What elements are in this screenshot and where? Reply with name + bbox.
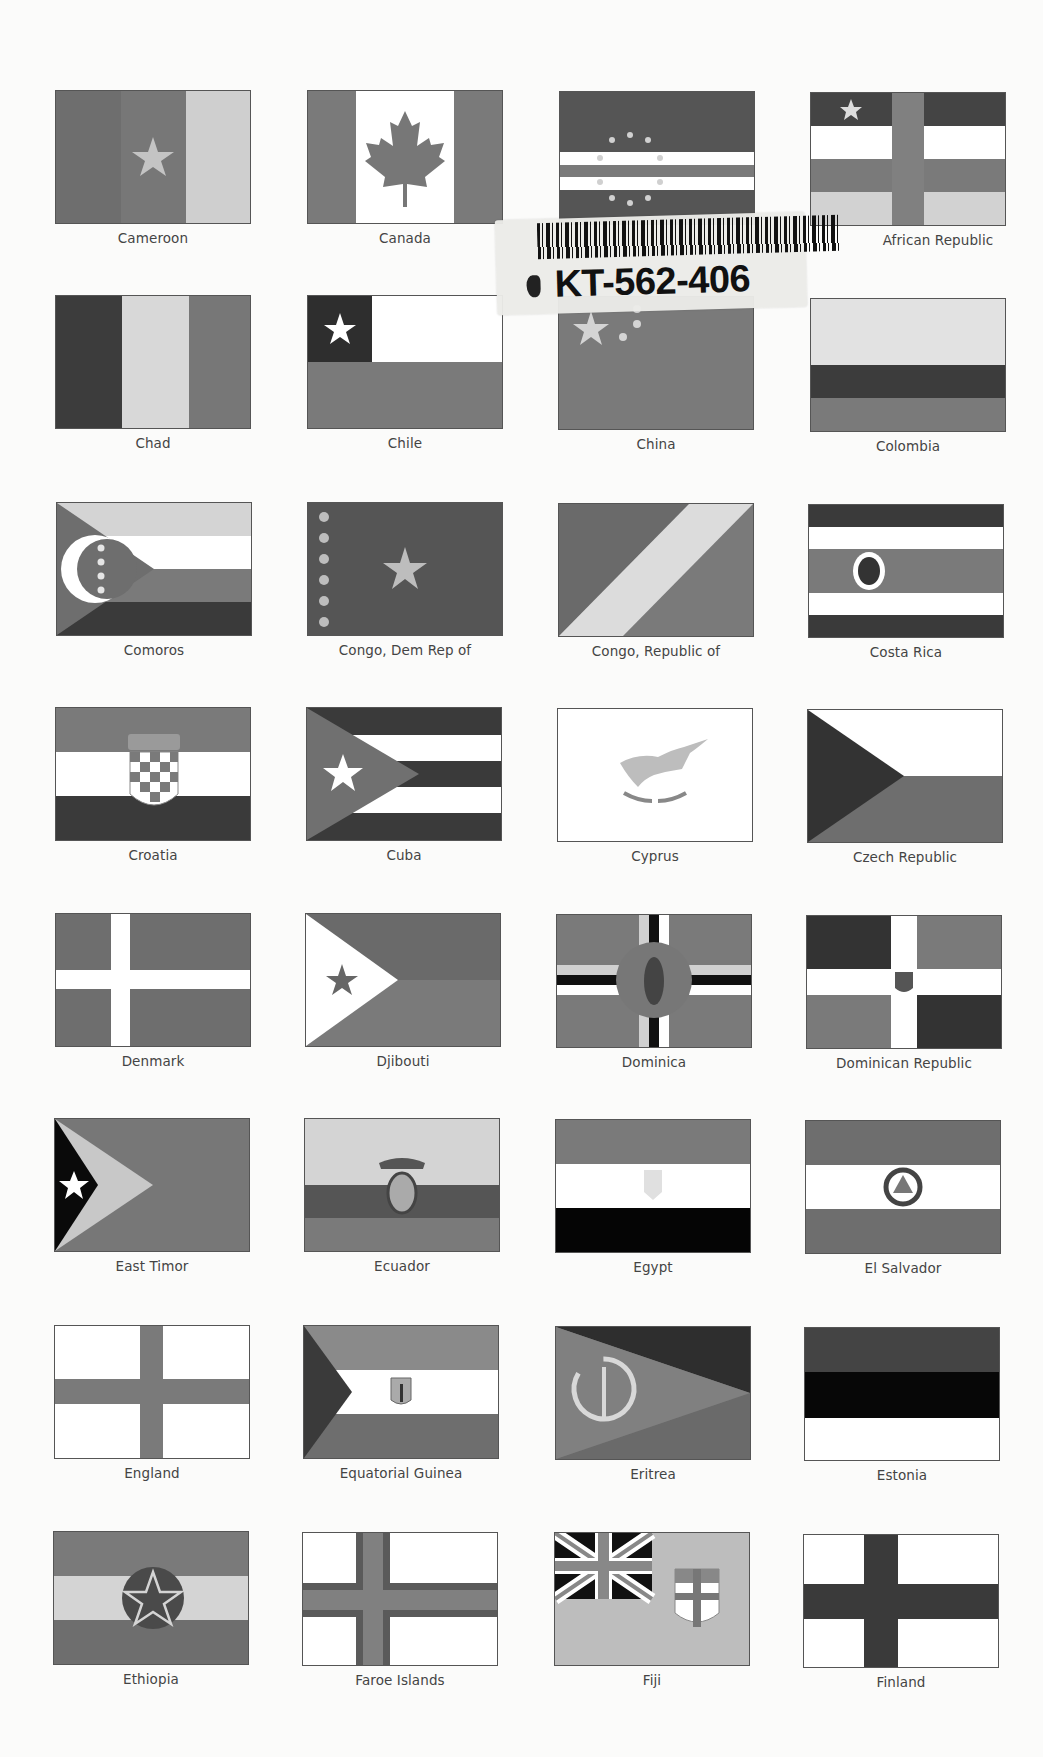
ethiopia-flag-icon xyxy=(53,1531,249,1665)
faroe-islands-flag-icon xyxy=(302,1532,498,1666)
flag-card-eritrea: Eritrea xyxy=(555,1326,751,1476)
flag-label: African Republic xyxy=(820,232,1043,248)
costa-rica-flag-icon xyxy=(808,504,1004,638)
barcode-sticker: KT-562-406 xyxy=(495,212,808,316)
egypt-flag-icon xyxy=(555,1119,751,1253)
cuba-flag-icon xyxy=(306,707,502,841)
flag-label: Denmark xyxy=(35,1053,271,1069)
flag-card-canada: Canada xyxy=(307,90,503,240)
congo-republic-flag-icon xyxy=(558,503,754,637)
flag-card-cameroon: Cameroon xyxy=(55,90,251,240)
flag-card-dominican-republic: Dominican Republic xyxy=(806,915,1002,1065)
flag-card-faroe-islands: Faroe Islands xyxy=(302,1532,498,1682)
equatorial-guinea-flag-icon xyxy=(303,1325,499,1459)
colombia-flag-icon xyxy=(810,298,1006,432)
el-salvador-flag-icon xyxy=(805,1120,1001,1254)
flag-card-cuba: Cuba xyxy=(306,707,502,857)
flag-label: Colombia xyxy=(790,438,1026,454)
djibouti-flag-icon xyxy=(305,913,501,1047)
eritrea-flag-icon xyxy=(555,1326,751,1460)
flag-card-ethiopia: Ethiopia xyxy=(53,1531,249,1681)
flag-card-central-african-republic: African Republic xyxy=(810,92,1006,242)
flag-label: Congo, Republic of xyxy=(538,643,774,659)
flag-card-china: China xyxy=(558,296,754,446)
dominican-republic-flag-icon xyxy=(806,915,1002,1049)
flag-label: El Salvador xyxy=(785,1260,1021,1276)
flag-label: Canada xyxy=(287,230,523,246)
flag-label: Djibouti xyxy=(285,1053,521,1069)
flag-label: Dominica xyxy=(536,1054,772,1070)
flag-card-cyprus: Cyprus xyxy=(557,708,753,858)
sticker-code: KT-562-406 xyxy=(554,257,751,305)
denmark-flag-icon xyxy=(55,913,251,1047)
flag-label: Estonia xyxy=(784,1467,1020,1483)
comoros-flag-icon xyxy=(56,502,252,636)
dominica-flag-icon xyxy=(556,914,752,1048)
flag-card-egypt: Egypt xyxy=(555,1119,751,1269)
flag-card-dominica: Dominica xyxy=(556,914,752,1064)
canada-flag-icon xyxy=(307,90,503,224)
croatia-flag-icon xyxy=(55,707,251,841)
flag-label: Chad xyxy=(35,435,271,451)
flag-label: Equatorial Guinea xyxy=(283,1465,519,1481)
flag-label: Croatia xyxy=(35,847,271,863)
flag-card-congo-republic: Congo, Republic of xyxy=(558,503,754,653)
flag-label: Egypt xyxy=(535,1259,771,1275)
flag-label: Congo, Dem Rep of xyxy=(287,642,523,658)
flag-card-comoros: Comoros xyxy=(56,502,252,652)
flag-label: England xyxy=(34,1465,270,1481)
england-flag-icon xyxy=(54,1325,250,1459)
barcode-icon xyxy=(537,215,840,259)
cape-verde-flag-icon xyxy=(559,91,755,225)
fiji-flag-icon xyxy=(554,1532,750,1666)
flag-label: East Timor xyxy=(34,1258,270,1274)
flag-label: Ecuador xyxy=(284,1258,520,1274)
cameroon-flag-icon xyxy=(55,90,251,224)
flag-card-czech-republic: Czech Republic xyxy=(807,709,1003,859)
east-timor-flag-icon xyxy=(54,1118,250,1252)
chile-flag-icon xyxy=(307,295,503,429)
flag-label: China xyxy=(538,436,774,452)
estonia-flag-icon xyxy=(804,1327,1000,1461)
flag-card-east-timor: East Timor xyxy=(54,1118,250,1268)
flag-card-chile: Chile xyxy=(307,295,503,445)
flag-card-fiji: Fiji xyxy=(554,1532,750,1682)
flag-label: Cuba xyxy=(286,847,522,863)
flag-card-ecuador: Ecuador xyxy=(304,1118,500,1268)
flag-label: Cameroon xyxy=(35,230,271,246)
torn-edge xyxy=(526,275,541,297)
flag-card-england: England xyxy=(54,1325,250,1475)
flag-card-congo-dem-rep: Congo, Dem Rep of xyxy=(307,502,503,652)
flag-label: Costa Rica xyxy=(788,644,1024,660)
ecuador-flag-icon xyxy=(304,1118,500,1252)
chad-flag-icon xyxy=(55,295,251,429)
flag-card-finland: Finland xyxy=(803,1534,999,1684)
flag-card-equatorial-guinea: Equatorial Guinea xyxy=(303,1325,499,1475)
flag-card-estonia: Estonia xyxy=(804,1327,1000,1477)
china-flag-icon xyxy=(558,296,754,430)
flag-label: Cyprus xyxy=(537,848,773,864)
flag-label: Ethiopia xyxy=(33,1671,269,1687)
flag-card-djibouti: Djibouti xyxy=(305,913,501,1063)
flag-card-costa-rica: Costa Rica xyxy=(808,504,1004,654)
central-african-republic-flag-icon xyxy=(810,92,1006,226)
congo-dem-rep-flag-icon xyxy=(307,502,503,636)
flag-card-croatia: Croatia xyxy=(55,707,251,857)
flag-label: Finland xyxy=(783,1674,1019,1690)
flag-card-denmark: Denmark xyxy=(55,913,251,1063)
flag-card-colombia: Colombia xyxy=(810,298,1006,448)
flag-label: Chile xyxy=(287,435,523,451)
flag-label: Eritrea xyxy=(535,1466,771,1482)
finland-flag-icon xyxy=(803,1534,999,1668)
flag-label: Fiji xyxy=(534,1672,770,1688)
czech-republic-flag-icon xyxy=(807,709,1003,843)
flag-label: Czech Republic xyxy=(787,849,1023,865)
flag-card-chad: Chad xyxy=(55,295,251,445)
flag-label: Dominican Republic xyxy=(786,1055,1022,1071)
flag-label: Comoros xyxy=(36,642,272,658)
flag-label: Faroe Islands xyxy=(282,1672,518,1688)
flag-card-el-salvador: El Salvador xyxy=(805,1120,1001,1270)
cyprus-flag-icon xyxy=(557,708,753,842)
